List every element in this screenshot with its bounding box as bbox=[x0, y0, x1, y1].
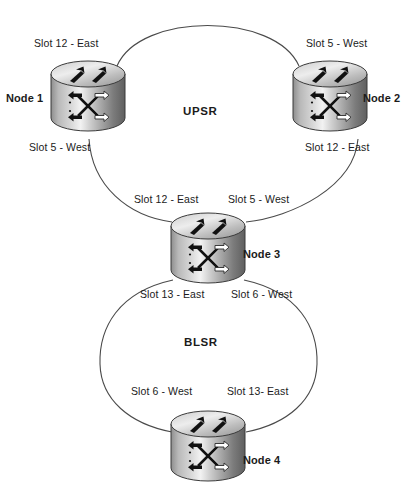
node-label-node3: Node 3 bbox=[243, 248, 280, 260]
node-icon-node3[interactable] bbox=[171, 213, 245, 283]
port-label-node2-east: Slot 12 - East bbox=[305, 141, 369, 153]
node-icon-node4[interactable] bbox=[171, 411, 245, 481]
port-label-node2-west: Slot 5 - West bbox=[306, 37, 367, 49]
port-label-node1-west: Slot 5 - West bbox=[29, 141, 90, 153]
port-label-node3-slot12-east: Slot 12 - East bbox=[134, 193, 198, 205]
ring-label-upsr: UPSR bbox=[183, 105, 217, 117]
blsr-ring-path bbox=[100, 280, 317, 432]
port-label-node3-slot6-west: Slot 6 - West bbox=[231, 288, 292, 300]
port-label-node4-slot13-east: Slot 13- East bbox=[227, 385, 288, 397]
port-label-node4-slot6-west: Slot 6 - West bbox=[131, 385, 192, 397]
node-label-node4: Node 4 bbox=[243, 454, 280, 466]
node-icon-node2[interactable] bbox=[293, 61, 367, 131]
node-label-node2: Node 2 bbox=[363, 92, 400, 104]
port-label-node3-slot13-east: Slot 13 - East bbox=[140, 288, 204, 300]
ring-label-blsr: BLSR bbox=[184, 336, 218, 348]
node-icon-node1[interactable] bbox=[51, 61, 125, 131]
port-label-node3-slot5-west: Slot 5 - West bbox=[228, 193, 289, 205]
port-label-node1-east: Slot 12 - East bbox=[34, 37, 98, 49]
network-topology-diagram bbox=[0, 0, 410, 483]
node-label-node1: Node 1 bbox=[6, 92, 43, 104]
